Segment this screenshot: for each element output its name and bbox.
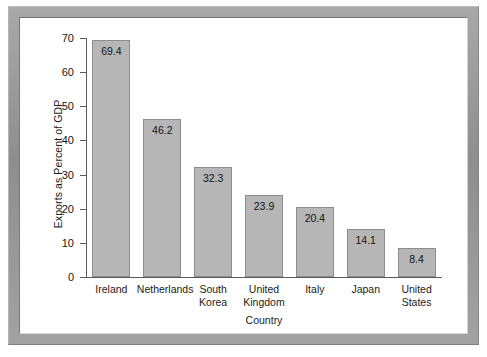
x-axis-tick-label: UnitedKingdom (239, 283, 290, 308)
y-axis-tick-label: 30 (48, 169, 74, 181)
x-axis-tick-label-line: States (391, 296, 442, 309)
y-axis-tick-label: 70 (48, 32, 74, 44)
bar: 46.2 (143, 119, 181, 277)
bar: 69.4 (92, 40, 130, 277)
y-axis-tick-mark (80, 175, 86, 176)
x-axis-line (86, 277, 442, 278)
chart-screenshot: Exports as Percent of GDP 01020304050607… (0, 0, 487, 357)
y-axis-tick-label: 0 (48, 271, 74, 283)
bar: 20.4 (296, 207, 334, 277)
x-axis-tick-label: UnitedStates (391, 283, 442, 308)
bar-value-label: 14.1 (348, 234, 384, 246)
x-axis-tick-label-line: Ireland (86, 283, 137, 296)
y-axis-tick-mark (80, 277, 86, 278)
y-axis-title: Exports as Percent of GDP (52, 64, 64, 264)
x-axis-tick-label-line: Japan (340, 283, 391, 296)
bar: 14.1 (347, 229, 385, 277)
x-axis-tick-label-line: United (239, 283, 290, 296)
y-axis-tick-mark (80, 243, 86, 244)
x-axis-tick-label: Italy (289, 283, 340, 296)
bar-value-label: 46.2 (144, 124, 180, 136)
bar-chart-plot-area: Exports as Percent of GDP 01020304050607… (20, 18, 467, 333)
y-axis-tick-label: 40 (48, 134, 74, 146)
x-axis-tick-label: Japan (340, 283, 391, 296)
x-axis-tick-label-line: Netherlands (137, 283, 188, 296)
y-axis-tick-label: 50 (48, 100, 74, 112)
x-axis-tick-label-line: Italy (289, 283, 340, 296)
y-axis-tick-mark (80, 106, 86, 107)
y-axis-tick-label: 20 (48, 203, 74, 215)
y-axis-tick-mark (80, 38, 86, 39)
x-axis-tick-label: SouthKorea (188, 283, 239, 308)
bar: 8.4 (398, 248, 436, 277)
y-axis-tick-label: 60 (48, 66, 74, 78)
y-axis-tick-mark (80, 72, 86, 73)
bar: 32.3 (194, 167, 232, 277)
x-axis-tick-label-line: United (391, 283, 442, 296)
x-axis-tick-label-line: Korea (188, 296, 239, 309)
bar-value-label: 20.4 (297, 212, 333, 224)
x-axis-title: Country (86, 314, 442, 326)
bar-value-label: 8.4 (399, 253, 435, 265)
bar-value-label: 23.9 (246, 200, 282, 212)
bar-value-label: 69.4 (93, 45, 129, 57)
y-axis-tick-label: 10 (48, 237, 74, 249)
bar-value-label: 32.3 (195, 172, 231, 184)
x-axis-tick-label-line: Kingdom (239, 296, 290, 309)
x-axis-tick-label-line: South (188, 283, 239, 296)
x-axis-tick-label: Ireland (86, 283, 137, 296)
y-axis-tick-mark (80, 209, 86, 210)
x-axis-tick-label: Netherlands (137, 283, 188, 296)
y-axis-tick-mark (80, 140, 86, 141)
y-axis-line (86, 38, 87, 277)
bar: 23.9 (245, 195, 283, 277)
